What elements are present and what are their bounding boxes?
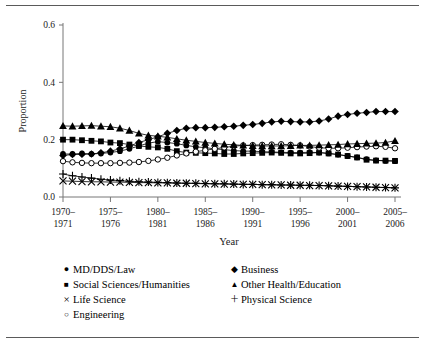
x-tick-label-top: 1990– <box>241 207 265 217</box>
legend-column-left: ●MD/DDS/Law■Social Sciences/Humanities×L… <box>60 262 240 322</box>
chart-legend: ●MD/DDS/Law■Social Sciences/Humanities×L… <box>0 262 425 334</box>
data-point-diamond-filled <box>334 112 342 120</box>
y-tick-label: 0.2 <box>43 135 55 145</box>
data-point-square-filled <box>345 153 351 159</box>
data-point-diamond-filled <box>382 108 390 116</box>
data-point-circle-open <box>146 158 151 163</box>
data-point-circle-open <box>70 160 75 165</box>
data-point-diamond-filled <box>249 121 257 129</box>
data-point-plus-cross <box>116 177 124 185</box>
series-physical-science <box>59 170 399 192</box>
data-point-square-filled <box>164 146 170 152</box>
data-point-plus-cross <box>125 177 133 185</box>
x-tick-label-top: 1975– <box>99 207 123 217</box>
data-point-diamond-filled <box>59 152 67 160</box>
x-tick-label-bottom: 1981 <box>148 219 167 229</box>
legend-item-label: Life Science <box>73 292 126 307</box>
data-point-diamond-filled <box>192 124 200 132</box>
data-point-circle-open <box>392 146 397 151</box>
data-point-square-filled <box>98 138 104 144</box>
data-point-diamond-filled <box>391 108 399 116</box>
data-point-diamond-filled <box>201 124 209 132</box>
y-axis-ticks: 0.00.20.40.6 <box>43 20 63 202</box>
data-point-circle-open <box>127 160 132 165</box>
top-horizontal-rule <box>6 5 419 6</box>
data-point-diamond-filled <box>211 124 219 132</box>
axes <box>63 23 401 197</box>
legend-item[interactable]: ■Social Sciences/Humanities <box>60 277 240 292</box>
legend-item[interactable]: ×Life Science <box>60 292 240 307</box>
data-point-diamond-filled <box>220 123 228 131</box>
x-tick-label-top: 1980– <box>146 207 170 217</box>
x-tick-label-bottom: 2006 <box>386 219 405 229</box>
data-point-square-filled <box>335 152 341 158</box>
data-point-diamond-filled <box>97 149 105 157</box>
data-point-triangle-filled <box>59 122 67 129</box>
legend-item-label: Other Health/Education <box>241 277 341 292</box>
data-point-diamond-filled <box>78 150 86 158</box>
data-point-diamond-filled <box>69 151 77 159</box>
data-point-diamond-filled <box>107 147 115 155</box>
legend-marker-diamond-filled-icon: ◆ <box>228 262 241 277</box>
data-point-square-filled <box>70 137 76 143</box>
data-point-diamond-filled <box>183 124 191 132</box>
data-point-square-filled <box>155 145 161 151</box>
plot-area: 0.00.20.40.6 1970–19711975–19761980–1981… <box>0 10 425 210</box>
legend-item[interactable]: ○Engineering <box>60 307 240 322</box>
data-point-square-filled <box>240 151 246 157</box>
legend-item[interactable]: ▲Other Health/Education <box>228 277 413 292</box>
x-axis-ticks: 1970–19711975–19761980–19811985–19861990… <box>51 197 407 229</box>
data-point-circle-open <box>136 159 141 164</box>
data-point-circle-open <box>212 146 217 151</box>
y-tick-label: 0.0 <box>43 192 55 202</box>
data-point-diamond-filled <box>230 122 238 130</box>
data-point-circle-open <box>108 160 113 165</box>
data-point-diamond-filled <box>372 108 380 116</box>
x-tick-label-bottom: 1971 <box>54 219 73 229</box>
legend-item-label: Social Sciences/Humanities <box>73 277 190 292</box>
x-axis-title: Year <box>219 236 239 247</box>
data-point-circle-open <box>155 157 160 162</box>
data-point-diamond-filled <box>344 111 352 119</box>
legend-item-label: MD/DDS/Law <box>73 262 135 277</box>
data-point-square-filled <box>60 137 66 143</box>
data-point-square-filled <box>288 151 294 157</box>
data-point-plus-cross <box>87 174 95 182</box>
data-point-plus-cross <box>135 178 143 186</box>
data-point-plus-cross <box>106 176 114 184</box>
data-point-plus-cross <box>59 170 67 178</box>
data-point-circle-open <box>203 148 208 153</box>
data-point-circle-open <box>165 155 170 160</box>
data-point-diamond-filled <box>268 118 276 126</box>
data-point-square-filled <box>307 150 313 156</box>
legend-item[interactable]: ◆Business <box>228 262 413 277</box>
legend-column-right: ◆Business▲Other Health/Education＋Physica… <box>228 262 413 307</box>
line-chart: 0.00.20.40.6 1970–19711975–19761980–1981… <box>0 10 425 260</box>
data-point-diamond-filled <box>287 118 295 126</box>
data-point-diamond-filled <box>325 115 333 123</box>
legend-marker-x-cross-icon: × <box>60 292 73 307</box>
data-point-square-filled <box>145 144 151 150</box>
data-point-triangle-filled <box>135 129 143 136</box>
data-point-circle-open <box>89 160 94 165</box>
legend-marker-square-filled-icon: ■ <box>60 277 73 292</box>
data-point-square-filled <box>354 155 360 161</box>
data-point-square-filled <box>231 151 237 157</box>
series-business <box>59 108 399 159</box>
data-point-square-filled <box>259 150 265 156</box>
bottom-horizontal-rule <box>6 337 419 338</box>
data-point-circle-open <box>60 158 65 163</box>
x-tick-label-bottom: 2001 <box>338 219 357 229</box>
x-tick-label-bottom: 1996 <box>291 219 310 229</box>
legend-marker-circle-open-icon: ○ <box>60 307 73 322</box>
data-point-square-filled <box>373 158 379 164</box>
data-point-circle-open <box>193 149 198 154</box>
x-tick-label-top: 1995– <box>288 207 312 217</box>
data-point-diamond-filled <box>315 117 323 125</box>
x-tick-label-top: 2005– <box>383 207 407 217</box>
legend-item[interactable]: ●MD/DDS/Law <box>60 262 240 277</box>
data-point-square-filled <box>392 158 398 164</box>
data-point-square-filled <box>79 137 85 143</box>
legend-item[interactable]: ＋Physical Science <box>228 292 413 307</box>
figure-container: 0.00.20.40.6 1970–19711975–19761980–1981… <box>0 0 425 348</box>
